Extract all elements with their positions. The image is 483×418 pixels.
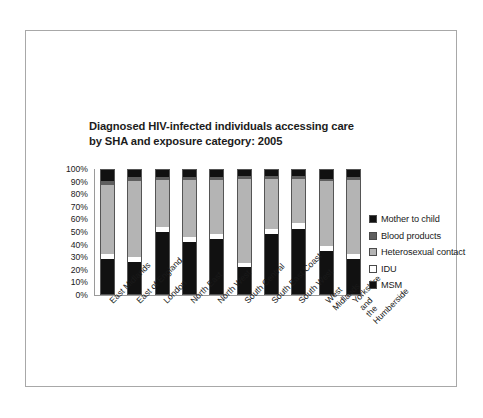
y-axis-tick: 100% xyxy=(66,164,88,174)
bar-stack xyxy=(182,169,197,295)
y-axis-tick: 50% xyxy=(71,227,88,237)
chart-figure-frame: Diagnosed HIV-infected individuals acces… xyxy=(25,30,457,387)
bar-segment xyxy=(347,170,360,177)
bar-column[interactable] xyxy=(100,169,115,295)
legend-label: MSM xyxy=(381,280,402,290)
legend-swatch-icon xyxy=(369,265,377,273)
y-axis-tick: 90% xyxy=(71,177,88,187)
y-axis-tick: 0% xyxy=(76,290,88,300)
plot-wrapper: 100%90%80%70%60%50%40%30%20%10%0% East M… xyxy=(54,169,364,299)
legend-label: Mother to child xyxy=(381,214,440,224)
bar-segment xyxy=(128,170,141,177)
legend-item[interactable]: Mother to child xyxy=(369,211,481,228)
bar-segment xyxy=(183,180,196,237)
bar-segment xyxy=(210,180,223,235)
bar-segment xyxy=(156,170,169,177)
legend-swatch-icon xyxy=(369,215,377,223)
legend-swatch-icon xyxy=(369,281,377,289)
legend-swatch-icon xyxy=(369,248,377,256)
x-axis: East MidlandsEast of EnglandLondonNorth … xyxy=(94,297,364,393)
bar-segment xyxy=(265,179,278,230)
y-axis-tick: 60% xyxy=(71,214,88,224)
chart-title: Diagnosed HIV-infected individuals acces… xyxy=(89,119,379,148)
legend-swatch-icon xyxy=(369,232,377,240)
bar-segment xyxy=(238,179,251,263)
legend-label: IDU xyxy=(381,264,397,274)
y-axis-tick: 10% xyxy=(71,277,88,287)
legend-label: Heterosexual contact xyxy=(381,247,465,257)
legend-label: Blood products xyxy=(381,231,441,241)
bar-segment xyxy=(101,259,114,294)
bar-segment xyxy=(320,170,333,179)
legend-item[interactable]: Blood products xyxy=(369,228,481,245)
bar-stack xyxy=(100,169,115,295)
bar-segment xyxy=(128,181,141,257)
bar-segment xyxy=(101,185,114,254)
bar-segment xyxy=(347,180,360,254)
bar-segment xyxy=(320,181,333,245)
legend-item[interactable]: MSM xyxy=(369,277,481,294)
bar-segment xyxy=(156,180,169,227)
chart-legend: Mother to childBlood productsHeterosexua… xyxy=(369,211,481,294)
y-axis: 100%90%80%70%60%50%40%30%20%10%0% xyxy=(54,164,90,300)
bar-column[interactable] xyxy=(182,169,197,295)
y-axis-tick: 80% xyxy=(71,189,88,199)
y-axis-tick: 20% xyxy=(71,265,88,275)
bar-segment xyxy=(292,179,305,224)
legend-item[interactable]: IDU xyxy=(369,261,481,278)
bar-segment xyxy=(183,170,196,177)
y-axis-tick: 70% xyxy=(71,202,88,212)
bar-segment xyxy=(101,170,114,181)
legend-item[interactable]: Heterosexual contact xyxy=(369,244,481,261)
bar-segment xyxy=(210,170,223,177)
y-axis-tick: 40% xyxy=(71,240,88,250)
y-axis-tick: 30% xyxy=(71,252,88,262)
